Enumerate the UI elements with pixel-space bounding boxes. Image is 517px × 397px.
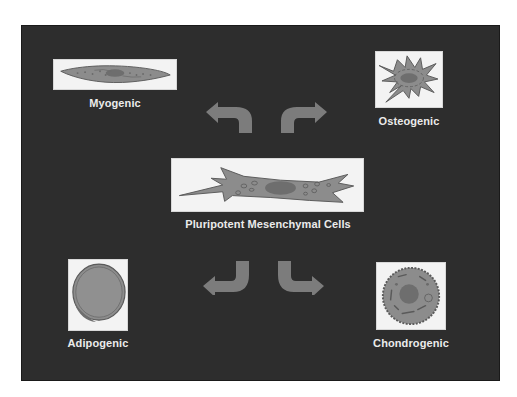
chondrogenic-label: Chondrogenic (373, 337, 449, 349)
muscle-cell-icon (54, 60, 176, 89)
center-label: Pluripotent Mesenchymal Cells (185, 218, 351, 230)
osteogenic-label: Osteogenic (379, 115, 440, 127)
curved-arrow-down-right-icon (276, 261, 324, 295)
adipogenic-cell-image (68, 259, 128, 331)
cartilage-cell-icon (377, 263, 445, 329)
myogenic-label: Myogenic (89, 97, 141, 109)
adipogenic-label: Adipogenic (68, 337, 129, 349)
mesenchymal-cell-image (171, 158, 364, 212)
osteogenic-cell-image (375, 51, 443, 108)
curved-arrow-down-left-icon (203, 261, 251, 295)
curved-arrow-up-right-icon (279, 99, 327, 133)
bone-cell-icon (376, 52, 442, 107)
curved-arrow-up-left-icon (206, 99, 254, 133)
mesenchymal-cell-icon (172, 159, 363, 211)
chondrogenic-cell-image (376, 262, 446, 330)
fat-cell-icon (69, 260, 127, 330)
myogenic-cell-image (53, 59, 177, 90)
